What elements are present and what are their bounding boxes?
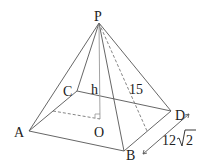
label-o: O [94,125,104,140]
height-po [99,23,100,119]
label-side-rad: 2 [186,133,193,148]
apothem-base-line [53,111,100,119]
label-d: D [175,108,185,123]
label-p: P [94,9,102,24]
pyramid-diagram: P A B C D O h 15 12 2 [0,0,207,168]
label-slant: 15 [129,82,143,97]
edge-pa [29,23,99,131]
slant-height-line [99,23,147,131]
label-side-coef: 12 [162,133,176,148]
label-a: A [14,125,25,140]
label-c: C [63,84,72,99]
edge-ab [29,131,124,151]
label-h: h [91,82,98,97]
label-b: B [126,148,135,163]
right-angle-marker [95,114,100,118]
edge-pc [77,23,99,91]
